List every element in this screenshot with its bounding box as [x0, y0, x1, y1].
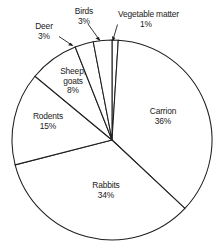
pie-label-deer-value: 3% — [26, 32, 62, 42]
pie-label-rabbits: Rabbits 34% — [82, 181, 130, 200]
pie-label-vegetable-matter-name: Vegetable matter — [118, 10, 214, 20]
pie-label-birds-value: 3% — [62, 17, 106, 27]
leader-birds — [88, 24, 100, 41]
pie-label-sheep-goats-value: 8% — [52, 86, 94, 96]
pie-label-rodents: Rodents 15% — [22, 112, 74, 131]
pie-label-rabbits-value: 34% — [82, 191, 130, 201]
pie-label-rodents-value: 15% — [22, 122, 74, 132]
pie-label-carrion: Carrion 36% — [139, 107, 187, 126]
pie-label-birds: Birds 3% — [62, 7, 106, 26]
pie-label-deer: Deer 3% — [26, 22, 62, 41]
pie-label-sheep-goats: Sheep, goats 8% — [52, 67, 94, 96]
pie-label-vegetable-matter: Vegetable matter 1% — [118, 10, 214, 29]
leader-vegetable-matter — [112, 25, 118, 42]
pie-label-vegetable-matter-value: 1% — [118, 20, 174, 30]
pie-label-carrion-value: 36% — [139, 117, 187, 127]
pie-chart: Vegetable matter 1% Birds 3% Deer 3% She… — [0, 0, 218, 251]
